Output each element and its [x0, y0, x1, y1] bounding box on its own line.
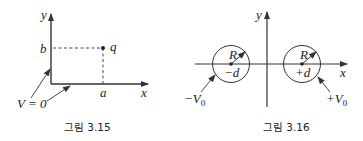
coord-label-b: b — [40, 41, 47, 56]
charge-point — [101, 46, 105, 50]
x-axis-label: x — [339, 65, 346, 80]
pointer-arrow-y-axis — [31, 69, 50, 98]
right-center-label: +d — [295, 65, 311, 80]
caption-3-15: 그림 3.15 — [64, 121, 111, 133]
right-potential-label: +V0 — [326, 91, 348, 108]
boundary-label: V = 0 — [17, 96, 47, 111]
figure-3-16: y x R −d −V0 R +d +V0 그림 3.16 — [184, 7, 348, 133]
left-potential-label: −V0 — [184, 91, 206, 108]
left-potential-arrow — [201, 75, 215, 92]
left-radius-label: R — [228, 47, 237, 62]
caption-3-16: 그림 3.16 — [263, 121, 310, 133]
y-axis-label: y — [254, 7, 262, 22]
coord-label-a: a — [100, 85, 107, 100]
right-potential-arrow — [318, 77, 330, 92]
right-radius-label: R — [299, 47, 308, 62]
x-axis-label: x — [140, 85, 147, 100]
point-label-q: q — [110, 39, 117, 54]
figures-canvas: y x q b a V = 0 그림 3.15 y x R −d −V0 R +… — [0, 0, 363, 141]
left-center-label: −d — [224, 65, 240, 80]
y-axis-label: y — [39, 7, 47, 22]
pointer-arrow-x-axis — [47, 86, 70, 101]
figure-3-15: y x q b a V = 0 그림 3.15 — [17, 7, 148, 133]
